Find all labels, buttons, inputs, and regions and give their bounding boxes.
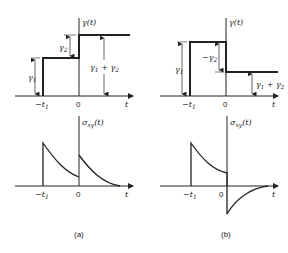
t-label: t [125,190,129,199]
panel-a-stress-plot: σxy(t) −t1 0 t [15,116,133,200]
panel-b-stress-plot: σxy(t) −t1 0 t [160,116,278,214]
zero-tick: 0 [76,100,81,109]
gamma-sum-label: γ1 + γ2 [256,80,285,90]
zero-tick: 0 [76,190,81,199]
panel-a: γ1 γ2 γ1 + γ2 γ(t) −t1 0 t σxy(t) −t1 0 … [15,18,133,239]
zero-tick: 0 [219,190,224,199]
minus-t1-tick: −t1 [35,100,49,110]
caption-b: (b) [221,230,231,239]
stress-decay-1 [43,143,79,186]
rheology-step-strain-diagram: γ1 γ2 γ1 + γ2 γ(t) −t1 0 t σxy(t) −t1 0 … [0,0,288,253]
gamma-t-label: γ(t) [229,18,243,27]
panel-b: γ1 −γ2 γ1 + γ2 γ(t) −t1 0 t σxy(t) −t1 0… [160,18,285,239]
t-label: t [272,100,276,109]
panel-a-strain-plot: γ1 γ2 γ1 + γ2 γ(t) −t1 0 t [15,18,133,110]
gamma-t-label: γ(t) [82,18,96,27]
gamma2-label: γ2 [59,43,68,53]
t-label: t [125,100,129,109]
stress-decay-1 [191,143,227,214]
sigma-label: σxy(t) [230,118,252,129]
panel-b-strain-plot: γ1 −γ2 γ1 + γ2 γ(t) −t1 0 t [160,18,285,110]
sigma-label: σxy(t) [82,118,104,129]
minus-t1-tick: −t1 [35,190,49,200]
t-label: t [272,190,276,199]
minus-t1-tick: −t1 [183,190,197,200]
zero-tick: 0 [223,100,228,109]
gamma-sum-label: γ1 + γ2 [90,63,119,73]
minus-gamma2-label: −γ2 [202,53,217,63]
caption-a: (a) [74,230,84,239]
stress-decay-2 [79,155,120,186]
minus-t1-tick: −t1 [182,100,196,110]
stress-recovery [227,186,268,214]
